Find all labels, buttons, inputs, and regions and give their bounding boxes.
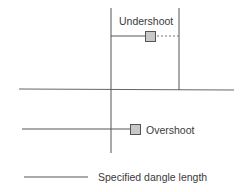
legend-label: Specified dangle length bbox=[98, 171, 207, 183]
dangle-diagram: Undershoot Overshoot Specified dangle le… bbox=[0, 0, 242, 192]
undershoot-label: Undershoot bbox=[119, 15, 173, 27]
undershoot-node bbox=[146, 32, 156, 42]
overshoot-label: Overshoot bbox=[146, 124, 195, 136]
main-horizontal-line bbox=[19, 89, 234, 90]
overshoot-node bbox=[131, 125, 141, 135]
